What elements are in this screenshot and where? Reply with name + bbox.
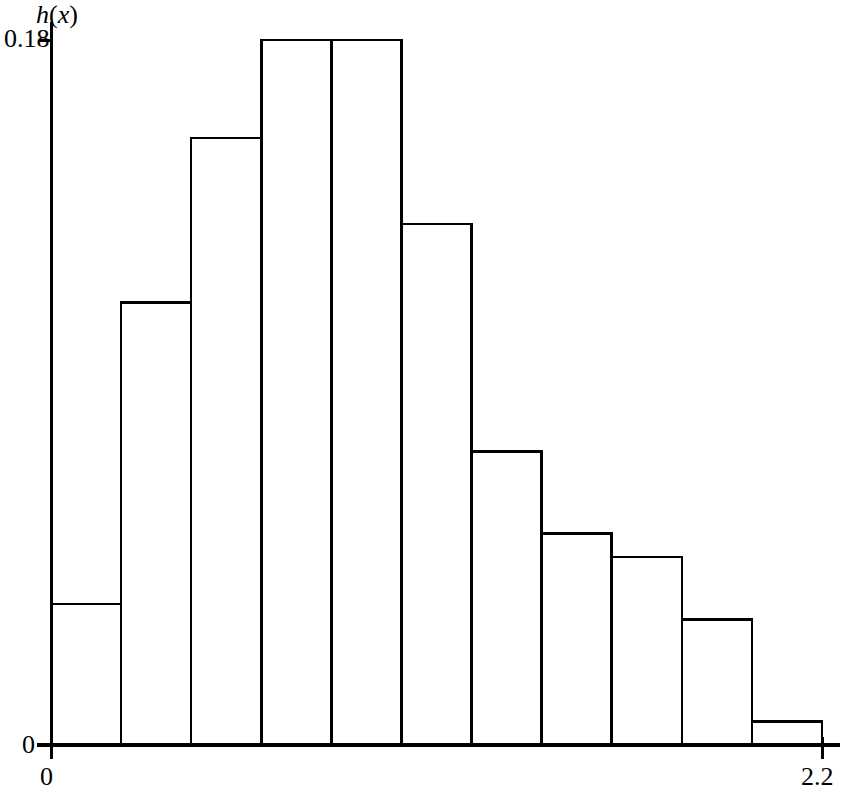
histogram-bar [401, 224, 471, 745]
axes-group [37, 22, 840, 759]
histogram-plot [0, 0, 843, 802]
y-axis-tick-label-zero: 0 [22, 732, 35, 758]
histogram-bar [191, 138, 261, 745]
x-axis-tick-label-zero: 0 [40, 764, 53, 790]
histogram-bar [752, 722, 822, 746]
histogram-bar [472, 451, 542, 745]
histogram-bar [542, 534, 612, 746]
y-axis-label-open-paren: ( [49, 0, 58, 29]
histogram-bar [121, 302, 191, 745]
histogram-figure: h(x) 0.18 0 0 2.2 x [0, 0, 843, 802]
x-axis-tick-label-max: 2.2 [801, 764, 834, 790]
y-axis-tick-label-max: 0.18 [4, 26, 50, 52]
histogram-bar [331, 40, 401, 745]
bars-group [51, 40, 822, 745]
histogram-bar [682, 620, 752, 745]
histogram-bar [51, 604, 121, 745]
histogram-bar [612, 557, 682, 745]
y-axis-label-x: x [58, 0, 70, 29]
histogram-bar [261, 40, 331, 745]
y-axis-label-close-paren: ) [69, 0, 78, 29]
